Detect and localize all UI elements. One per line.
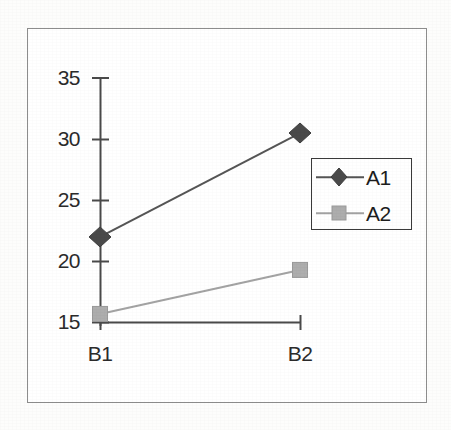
chart-legend: A1 A2 [311,158,412,230]
y-axis-tick-label-30: 30 [34,127,80,151]
data-point-a2-b2 [293,262,308,277]
series-line-a1 [100,133,300,237]
x-axis-tick-label-b2: B2 [272,342,328,366]
legend-entry-a2[interactable]: A2 [312,195,411,231]
y-axis-tick-label-15: 15 [34,310,80,334]
x-axis-tick-label-b1: B1 [72,342,128,366]
diamond-marker-icon [328,166,350,188]
data-point-a1-b1 [89,227,111,247]
series-line-a2 [100,270,300,314]
square-marker-icon [328,202,350,224]
data-point-a2-b1 [93,306,108,321]
y-axis-tick-label-35: 35 [34,66,80,90]
legend-label-a1: A1 [366,167,391,188]
legend-label-a2: A2 [366,203,391,224]
legend-entry-a1[interactable]: A1 [312,159,411,195]
y-axis-tick-label-20: 20 [34,249,80,273]
legend-sample-a2 [312,198,366,228]
chart-figure: 35 30 25 20 15 B1 B2 A1 A2 [0,0,451,430]
data-point-a1-b2 [289,123,311,143]
y-axis-tick-label-25: 25 [34,188,80,212]
legend-sample-a1 [312,162,366,192]
